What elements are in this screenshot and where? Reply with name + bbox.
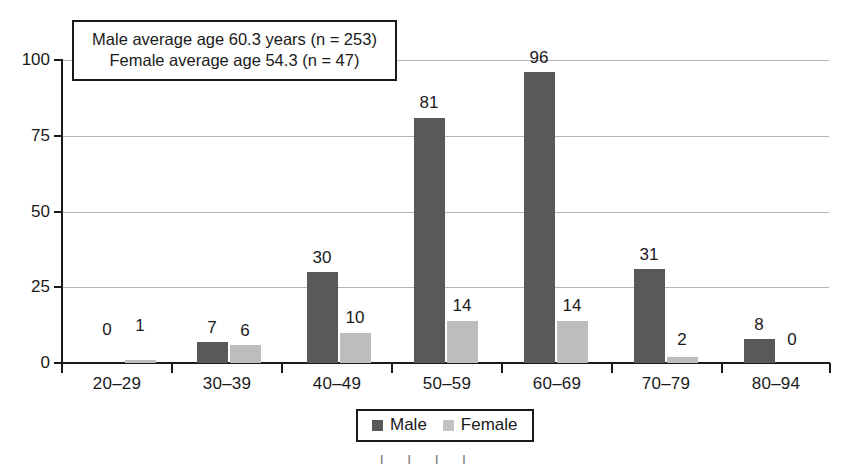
bar-female-50-59 [447,321,478,363]
gridline-25 [62,287,829,288]
plot-area [62,60,829,363]
gridline-75 [62,136,829,137]
x-tick-mark-3 [391,363,393,373]
bar-male-50-59 [414,118,445,363]
x-axis-label-30-39: 30–39 [203,374,251,394]
x-tick-mark-1 [171,363,173,373]
y-tick-mark-75 [54,135,63,137]
legend: Male Female [356,409,534,442]
bar-value-female-40-49: 10 [346,308,365,328]
bar-value-female-80-94: 0 [787,330,796,350]
y-tick-label-50: 50 [8,202,50,222]
legend-label-female: Female [461,415,518,435]
y-tick-label-100: 100 [8,50,50,70]
bar-value-female-50-59: 14 [453,296,472,316]
y-tick-label-25: 25 [8,277,50,297]
x-axis-label-20-29: 20–29 [93,374,141,394]
legend-label-male: Male [390,415,427,435]
bar-value-male-20-29: 0 [102,320,111,340]
x-tick-mark-2 [281,363,283,373]
bar-male-40-49 [307,272,338,363]
bar-value-female-30-39: 6 [240,321,249,341]
annotation-box: Male average age 60.3 years (n = 253) Fe… [72,20,397,81]
x-axis-label-50-59: 50–59 [423,374,471,394]
legend-swatch-male-icon [372,420,383,431]
annotation-line-male: Male average age 60.3 years (n = 253) [84,29,385,50]
bar-female-20-29 [125,360,156,363]
bar-chart: 100 75 50 25 0 0 1 7 6 30 10 81 14 96 14… [0,0,848,464]
annotation-line-female: Female average age 54.3 (n = 47) [84,50,385,71]
y-tick-mark-50 [54,211,63,213]
bar-female-60-69 [557,321,588,363]
bar-value-female-60-69: 14 [563,296,582,316]
x-axis-line [61,362,830,364]
bar-female-30-39 [230,345,261,363]
legend-item-female: Female [443,415,518,435]
x-tick-mark-4 [501,363,503,373]
bar-value-male-80-94: 8 [754,315,763,335]
y-tick-label-75: 75 [8,126,50,146]
x-axis-label-60-69: 60–69 [533,374,581,394]
bar-value-female-70-79: 2 [677,330,686,350]
bar-female-40-49 [340,333,371,363]
x-axis-label-40-49: 40–49 [313,374,361,394]
x-axis-label-80-94: 80–94 [752,374,800,394]
caption-remnant: | . | . | . | [0,452,848,464]
bar-male-60-69 [524,72,555,363]
bar-male-30-39 [197,342,228,363]
x-tick-mark-0 [61,363,63,373]
bar-value-male-30-39: 7 [207,318,216,338]
bar-value-female-20-29: 1 [135,316,144,336]
gridline-50 [62,212,829,213]
bar-value-male-60-69: 96 [530,48,549,68]
y-tick-mark-100 [54,59,63,61]
bar-male-80-94 [744,339,775,363]
legend-item-male: Male [372,415,427,435]
bar-female-70-79 [667,357,698,363]
y-tick-mark-25 [54,286,63,288]
x-tick-mark-6 [721,363,723,373]
bar-male-70-79 [634,269,665,363]
bar-value-male-40-49: 30 [313,248,332,268]
x-axis-label-70-79: 70–79 [642,374,690,394]
legend-swatch-female-icon [443,420,454,431]
x-tick-mark-5 [611,363,613,373]
bar-value-male-50-59: 81 [420,93,439,113]
x-tick-mark-7 [829,363,831,373]
y-tick-label-0: 0 [8,353,50,373]
bar-value-male-70-79: 31 [640,245,659,265]
